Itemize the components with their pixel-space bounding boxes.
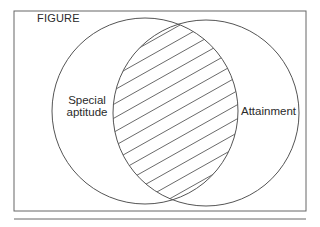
special-aptitude-label-line2: aptitude	[52, 106, 122, 118]
attainment-label: Attainment	[241, 105, 296, 117]
special-aptitude-label: Special aptitude	[52, 94, 122, 118]
special-aptitude-label-line1: Special	[52, 94, 122, 106]
overlap-hatch	[100, 0, 260, 227]
figure-title: FIGURE	[37, 13, 80, 25]
